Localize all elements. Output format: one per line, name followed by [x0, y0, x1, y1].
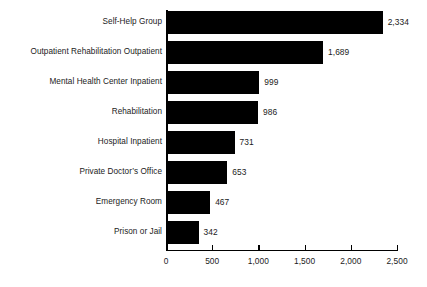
x-axis-tick: [305, 245, 306, 251]
category-label: Self-Help Group: [0, 17, 162, 27]
x-axis-tick: [166, 245, 167, 251]
x-axis-tick-label: 2,000: [340, 256, 361, 267]
bar-value-label: 999: [264, 77, 278, 87]
x-axis-tick-label: 1,000: [248, 256, 269, 267]
x-axis-tick-label: 0: [164, 256, 169, 267]
bar-value-label: 1,689: [328, 47, 349, 57]
x-axis-tick-label: 500: [205, 256, 219, 267]
bar: [167, 191, 210, 214]
category-label: Outpatient Rehabilitation Outpatient: [0, 47, 162, 57]
x-axis-tick: [212, 245, 213, 251]
category-label: Emergency Room: [0, 197, 162, 207]
category-axis-labels: Self-Help GroupOutpatient Rehabilitation…: [0, 0, 162, 287]
category-label: Mental Health Center Inpatient: [0, 77, 162, 87]
bar: [167, 161, 227, 184]
x-axis-tick-label: 1,500: [294, 256, 315, 267]
category-label: Private Doctor’s Office: [0, 167, 162, 177]
category-label: Prison or Jail: [0, 227, 162, 237]
x-axis-tick-label: 2,500: [386, 256, 407, 267]
bar: [167, 221, 199, 244]
bar: [167, 71, 259, 94]
bar: [167, 101, 258, 124]
bar-value-label: 467: [215, 197, 229, 207]
bar: [167, 11, 383, 34]
plot-area: 2,3341,68999998673165346734205001,0001,5…: [166, 0, 427, 287]
x-axis-tick: [258, 245, 259, 251]
category-label: Rehabilitation: [0, 107, 162, 117]
bar: [167, 131, 235, 154]
category-axis-line: [166, 250, 398, 251]
bar-value-label: 653: [232, 167, 246, 177]
bar-value-label: 986: [263, 107, 277, 117]
bar-value-label: 2,334: [388, 17, 409, 27]
bar: [167, 41, 323, 64]
bar-value-label: 731: [240, 137, 254, 147]
bar-value-label: 342: [204, 227, 218, 237]
category-label: Hospital Inpatient: [0, 137, 162, 147]
x-axis-tick: [351, 245, 352, 251]
bar-chart: Self-Help GroupOutpatient Rehabilitation…: [0, 0, 427, 287]
x-axis-tick: [397, 245, 398, 251]
